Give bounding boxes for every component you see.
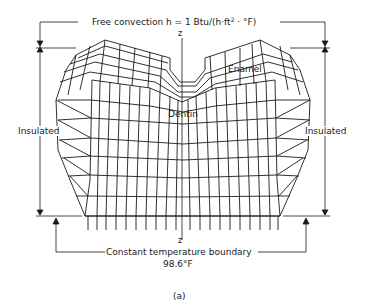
z-axis-label-bottom: z <box>178 236 182 246</box>
free-convection-suffix: · °F) <box>234 17 256 27</box>
free-convection-label: Free convection h = 1 Btu/(h·ft2 · °F) <box>92 17 256 27</box>
insulated-right-label: Insulated <box>305 126 347 136</box>
insulated-left-label: Insulated <box>18 126 60 136</box>
enamel-label: Enamel <box>228 64 262 74</box>
temperature-value: 98.6°F <box>163 259 193 269</box>
free-convection-text: Free convection h = 1 Btu/(h·ft <box>92 17 231 27</box>
constant-temperature-label: Constant temperature boundary <box>106 247 252 257</box>
z-axis-label-top: z <box>178 29 182 39</box>
panel-label: (a) <box>173 291 186 301</box>
dentin-label: Dentin <box>168 109 198 119</box>
superscript-2: 2 <box>231 16 235 23</box>
tooth-outline <box>56 40 310 216</box>
